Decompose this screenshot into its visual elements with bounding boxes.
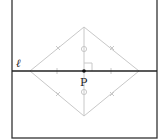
geometry-diagram: ℓ P	[0, 0, 161, 140]
point-label: P	[80, 76, 88, 89]
point-p	[82, 69, 86, 73]
line-label: ℓ	[16, 57, 21, 70]
